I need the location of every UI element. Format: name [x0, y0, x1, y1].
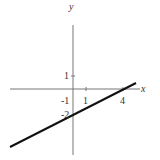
y-tick-label-minus2: -2: [61, 109, 69, 120]
y-tick-label-minus1: -1: [61, 95, 69, 106]
x-axis-label: x: [140, 83, 146, 94]
x-tick-label-4: 4: [120, 95, 125, 106]
y-tick-label-1: 1: [64, 70, 69, 81]
coordinate-plot: y x 1 -1 1 4 -2: [0, 0, 160, 160]
x-tick-label-1: 1: [83, 95, 88, 106]
y-axis-label: y: [68, 1, 74, 12]
